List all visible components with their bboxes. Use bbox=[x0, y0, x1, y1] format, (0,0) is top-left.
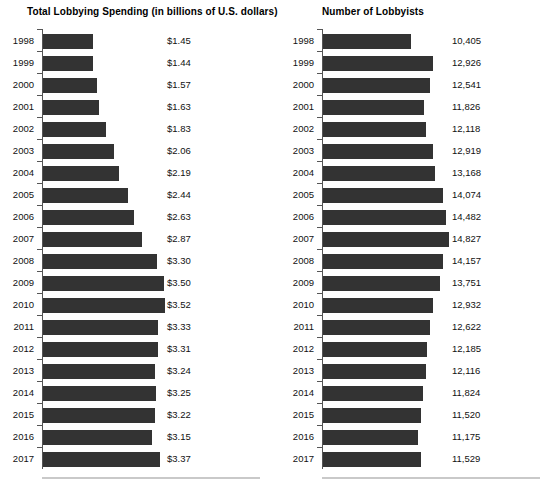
axis-tick bbox=[37, 271, 43, 272]
bar-track bbox=[43, 408, 155, 423]
bar bbox=[43, 56, 93, 71]
bar-track bbox=[323, 408, 421, 423]
bar bbox=[323, 276, 440, 291]
bar-track bbox=[43, 166, 119, 181]
bar-value-label: $3.52 bbox=[167, 299, 191, 311]
axis-tick bbox=[317, 95, 323, 96]
bar-row: 200111,826 bbox=[280, 97, 553, 119]
category-label: 2014 bbox=[280, 387, 314, 399]
bottom-rule-spending bbox=[42, 477, 260, 479]
lobbying-figure: Total Lobbying Spending (in billions of … bbox=[0, 0, 553, 497]
bar-track bbox=[43, 386, 156, 401]
category-label: 2005 bbox=[280, 189, 314, 201]
category-label: 2004 bbox=[0, 167, 34, 179]
bar-value-label: 12,116 bbox=[452, 365, 480, 377]
bar-value-label: 12,926 bbox=[452, 57, 481, 69]
bar bbox=[323, 34, 411, 49]
axis-tick bbox=[37, 227, 43, 228]
bar bbox=[43, 276, 164, 291]
bar-value-label: $3.33 bbox=[167, 321, 191, 333]
axis-tick bbox=[317, 117, 323, 118]
bar-row: 2009$3.50 bbox=[0, 273, 280, 295]
bar bbox=[323, 364, 426, 379]
bar-value-label: $2.87 bbox=[167, 233, 191, 245]
bar-row: 201611,175 bbox=[280, 427, 553, 449]
bar-value-label: 11,826 bbox=[452, 101, 480, 113]
bar-track bbox=[323, 210, 446, 225]
bar-row: 2008$3.30 bbox=[0, 251, 280, 273]
category-label: 1999 bbox=[0, 57, 34, 69]
axis-tick bbox=[317, 161, 323, 162]
bar bbox=[323, 430, 418, 445]
bar-track bbox=[43, 100, 99, 115]
bar bbox=[43, 34, 93, 49]
bar bbox=[43, 342, 158, 357]
bar-row: 2002$1.83 bbox=[0, 119, 280, 141]
category-label: 2011 bbox=[0, 321, 34, 333]
bar-row: 2012$3.31 bbox=[0, 339, 280, 361]
bar-track bbox=[323, 34, 411, 49]
panel-total-lobbying-spending: Total Lobbying Spending (in billions of … bbox=[0, 0, 280, 497]
category-label: 2000 bbox=[0, 79, 34, 91]
bar-value-label: $1.57 bbox=[167, 79, 191, 91]
bar bbox=[323, 144, 433, 159]
bar-value-label: 14,074 bbox=[452, 189, 481, 201]
bar bbox=[323, 210, 446, 225]
bar bbox=[323, 56, 433, 71]
bar-row: 200814,157 bbox=[280, 251, 553, 273]
bar-row: 2006$2.63 bbox=[0, 207, 280, 229]
bar-value-label: 11,175 bbox=[452, 431, 480, 443]
axis-tick bbox=[317, 205, 323, 206]
bar bbox=[43, 78, 97, 93]
bar-track bbox=[323, 452, 421, 467]
axis-tick bbox=[317, 293, 323, 294]
bar-row: 2001$1.63 bbox=[0, 97, 280, 119]
bar-track bbox=[323, 56, 433, 71]
bar-row: 2007$2.87 bbox=[0, 229, 280, 251]
axis-tick bbox=[317, 139, 323, 140]
bar-value-label: $3.24 bbox=[167, 365, 191, 377]
chart-title-spending: Total Lobbying Spending (in billions of … bbox=[27, 6, 278, 17]
bar bbox=[43, 232, 142, 247]
bar bbox=[323, 100, 424, 115]
bar-value-label: $3.15 bbox=[167, 431, 191, 443]
bar bbox=[43, 254, 157, 269]
plot-area-lobbyists: 199810,405199912,926200012,541200111,826… bbox=[280, 29, 553, 481]
axis-tick bbox=[317, 249, 323, 250]
category-label: 2006 bbox=[0, 211, 34, 223]
category-label: 2003 bbox=[280, 145, 314, 157]
category-label: 2013 bbox=[0, 365, 34, 377]
bar-track bbox=[323, 78, 430, 93]
bar-row: 2011$3.33 bbox=[0, 317, 280, 339]
bar bbox=[43, 100, 99, 115]
bar-value-label: $2.06 bbox=[167, 145, 191, 157]
axis-tick bbox=[37, 403, 43, 404]
axis-tick bbox=[37, 51, 43, 52]
bar-track bbox=[323, 386, 423, 401]
category-label: 2006 bbox=[280, 211, 314, 223]
category-label: 1999 bbox=[280, 57, 314, 69]
bar-row: 2016$3.15 bbox=[0, 427, 280, 449]
category-label: 2012 bbox=[0, 343, 34, 355]
bar-row: 200413,168 bbox=[280, 163, 553, 185]
bar-track bbox=[43, 34, 93, 49]
bar-row: 2013$3.24 bbox=[0, 361, 280, 383]
bar bbox=[323, 298, 433, 313]
bar bbox=[43, 298, 165, 313]
bar-value-label: 12,932 bbox=[452, 299, 481, 311]
bar-row: 2017$3.37 bbox=[0, 449, 280, 471]
bar-row: 200714,827 bbox=[280, 229, 553, 251]
bar-value-label: 12,541 bbox=[452, 79, 481, 91]
bar-value-label: $3.31 bbox=[167, 343, 191, 355]
category-label: 2010 bbox=[280, 299, 314, 311]
axis-tick bbox=[37, 337, 43, 338]
bar-row: 1999$1.44 bbox=[0, 53, 280, 75]
bar-row: 200312,919 bbox=[280, 141, 553, 163]
axis-tick bbox=[37, 447, 43, 448]
bar-row: 200614,482 bbox=[280, 207, 553, 229]
axis-tick bbox=[37, 73, 43, 74]
category-label: 2007 bbox=[280, 233, 314, 245]
bar-value-label: $3.50 bbox=[167, 277, 191, 289]
axis-tick bbox=[37, 425, 43, 426]
bar-track bbox=[323, 364, 426, 379]
